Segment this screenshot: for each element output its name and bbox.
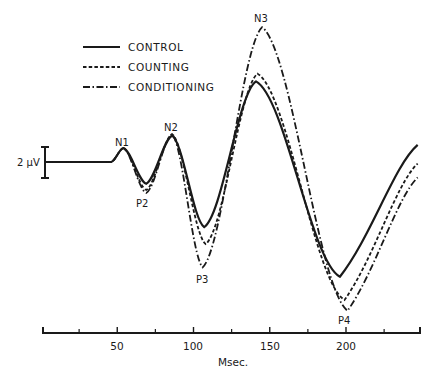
peak-label-n3: N3 (254, 13, 268, 24)
peak-label-p2: P2 (136, 198, 148, 209)
peak-label-n2: N2 (164, 122, 178, 133)
legend-label-control: CONTROL (128, 41, 183, 53)
calibration-label: 2 µV (17, 157, 40, 168)
x-tick-label-50: 50 (110, 340, 123, 352)
peak-label-p4: P4 (338, 315, 350, 326)
peak-label-p3: P3 (196, 274, 208, 285)
erp-chart: CONTROL COUNTING CONDITIONING 2 µV N1 P2… (0, 0, 440, 376)
x-axis: 50 100 150 200 Msec. (43, 327, 420, 368)
x-tick-label-100: 100 (183, 340, 203, 352)
trace-conditioning (46, 27, 418, 311)
traces (46, 27, 418, 311)
trace-counting (46, 74, 418, 300)
x-tick-label-200: 200 (336, 340, 356, 352)
calibration-bar: 2 µV (17, 147, 49, 178)
legend-label-counting: COUNTING (128, 61, 189, 73)
peak-label-n1: N1 (115, 137, 129, 148)
x-tick-label-150: 150 (260, 340, 280, 352)
peak-labels: N1 P2 N2 P3 N3 P4 (115, 13, 350, 326)
legend-label-conditioning: CONDITIONING (128, 81, 215, 93)
legend: CONTROL COUNTING CONDITIONING (83, 41, 215, 93)
trace-control (46, 81, 418, 276)
x-axis-label: Msec. (218, 356, 248, 368)
